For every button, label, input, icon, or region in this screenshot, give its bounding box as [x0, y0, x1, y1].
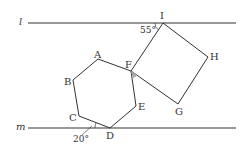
diagram-svg	[0, 0, 245, 153]
geometry-diagram: l m I H G F A B C D E 55° 20°	[0, 0, 245, 153]
label-point-b: B	[64, 77, 71, 87]
label-point-e: E	[138, 102, 145, 112]
label-point-i: I	[160, 11, 164, 21]
angle-label-d: 20°	[73, 135, 89, 144]
square-fihg	[131, 23, 208, 104]
label-point-h: H	[210, 52, 219, 62]
label-point-a: A	[94, 50, 101, 60]
label-line-m: m	[16, 122, 25, 132]
angle-label-i: 55°	[140, 26, 156, 35]
label-point-g: G	[175, 107, 183, 117]
label-line-l: l	[19, 17, 22, 27]
angle-arc-d	[95, 123, 96, 128]
label-point-c: C	[69, 113, 77, 123]
label-point-d: D	[106, 131, 114, 141]
label-point-f: F	[125, 60, 132, 70]
